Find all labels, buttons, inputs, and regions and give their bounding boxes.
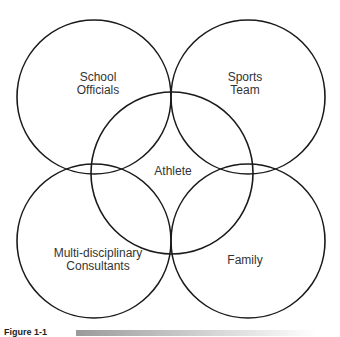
label-line: Team <box>228 84 263 97</box>
label-line: Officials <box>77 84 119 97</box>
label-athlete: Athlete <box>154 165 191 178</box>
label-school-officials: School Officials <box>77 71 119 97</box>
label-line: Consultants <box>54 260 143 273</box>
circle-multidisciplinary-consultants <box>17 164 171 318</box>
figure-caption: Figure 1-1 <box>4 327 47 337</box>
label-sports-team: Sports Team <box>228 71 263 97</box>
label-multidisciplinary-consultants: Multi-disciplinary Consultants <box>54 247 143 273</box>
label-family: Family <box>227 254 262 267</box>
label-line: Family <box>227 254 262 267</box>
caption-divider-bar <box>76 330 316 336</box>
label-line: Athlete <box>154 165 191 178</box>
circle-family <box>171 164 325 318</box>
circle-sports-team <box>171 20 325 174</box>
